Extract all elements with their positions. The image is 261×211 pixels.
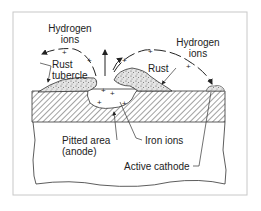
hydrogen-ions-label-right: Hydrogen ions	[172, 37, 224, 59]
corrosion-diagram: + + + + + + + + + Hydrogen ions Hydrogen…	[0, 0, 261, 211]
iron-ion-symbol: +	[110, 88, 115, 99]
active-cathode-label: Active cathode	[124, 161, 190, 172]
hydrogen-ion-symbol: +	[62, 47, 67, 58]
hydrogen-ions-label-left: Hydrogen ions	[46, 23, 94, 45]
pitted-area-label: Pitted area (anode)	[62, 135, 110, 157]
hydrogen-ion-symbol: +	[148, 46, 153, 57]
hydrogen-arc-mid	[113, 58, 122, 70]
iron-ion-symbol: +	[97, 97, 102, 108]
hydrogen-ion-symbol: +	[186, 61, 191, 72]
hydrogen-ion-symbol: +	[87, 55, 92, 66]
label-line: Hydrogen	[172, 37, 224, 48]
hydrogen-ion-symbol: +	[122, 55, 127, 66]
cathode-rust-deposit	[206, 85, 224, 91]
label-line: ions	[46, 34, 94, 45]
iron-ion-symbol: +	[101, 85, 106, 96]
label-line: Rust	[52, 59, 88, 70]
label-line: (anode)	[62, 146, 110, 157]
label-line: ions	[172, 48, 224, 59]
iron-ions-label: Iron ions	[145, 135, 183, 146]
iron-ion-symbol: +	[122, 98, 127, 109]
rust-tubercle-label: Rust tubercle	[52, 59, 88, 81]
label-line: Hydrogen	[46, 23, 94, 34]
label-line: tubercle	[52, 70, 88, 81]
rust-tubercle-leader	[40, 63, 51, 82]
rust-label: Rust	[148, 63, 169, 74]
diagram-canvas	[0, 0, 261, 211]
label-line: Pitted area	[62, 135, 110, 146]
